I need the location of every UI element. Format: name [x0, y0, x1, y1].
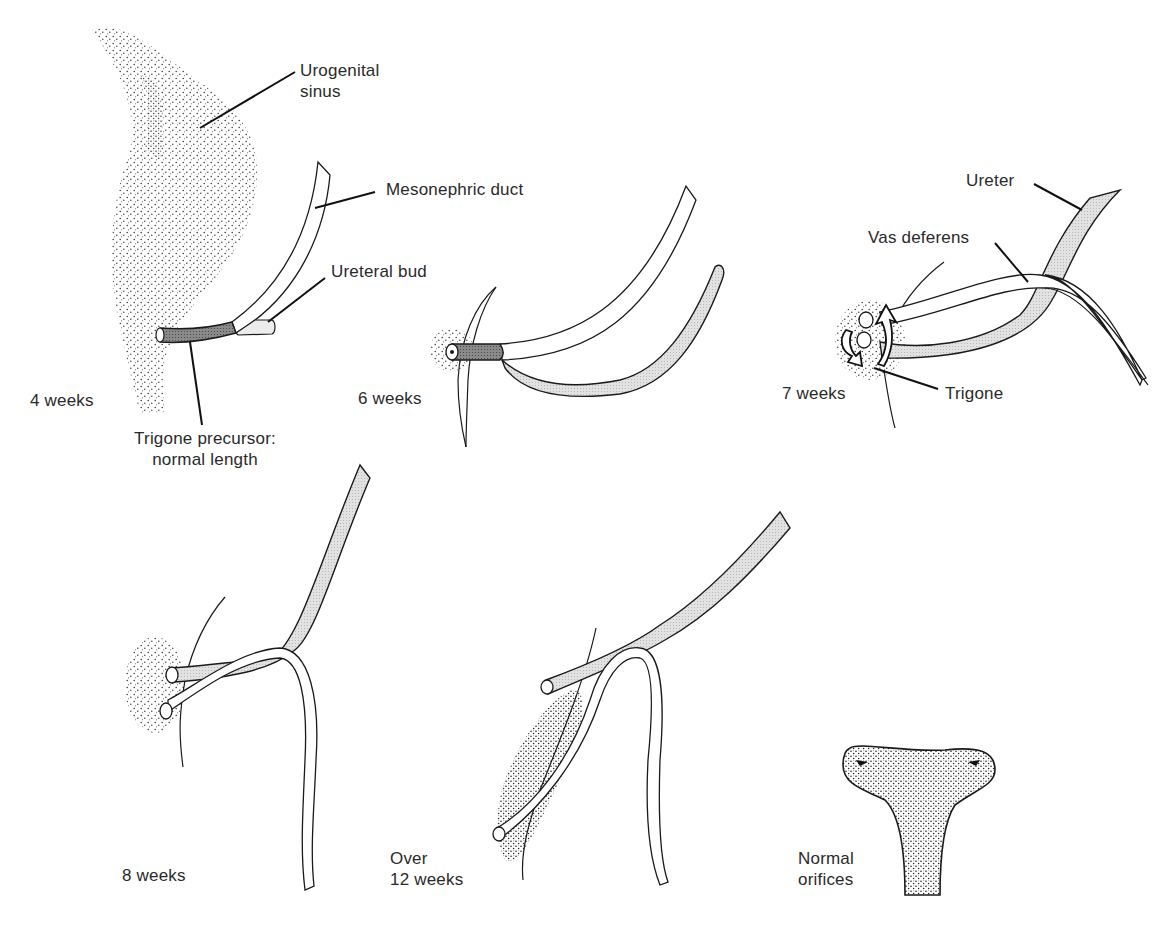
orifice-ureter [541, 680, 553, 694]
label-vas-deferens: Vas deferens [868, 227, 969, 248]
label-line: Over [390, 848, 463, 869]
vas-deferens [168, 648, 317, 890]
label-line: normal length [110, 449, 300, 470]
label-ureteral-bud: Ureteral bud [331, 261, 427, 282]
mesonephric-duct [500, 186, 696, 360]
label-urogenital-sinus: Urogenital sinus [300, 60, 380, 102]
label-trigone: Trigone [945, 383, 1003, 404]
label-line: 12 weeks [390, 869, 463, 890]
ureter [502, 265, 724, 396]
label-line: sinus [300, 81, 380, 102]
stage-label-7-weeks: 7 weeks [782, 383, 846, 404]
stage-label-4-weeks: 4 weeks [30, 390, 94, 411]
figure-canvas: Urogenital sinus Mesonephric duct Ureter… [0, 0, 1174, 931]
panel-8-weeks [125, 465, 370, 890]
ureter [880, 190, 1120, 358]
trigone-normal-shape [843, 746, 995, 895]
orifice-vas [859, 312, 873, 328]
sinus-stipple [125, 637, 185, 733]
panel-over-12-weeks [493, 512, 790, 885]
trigone-segment [452, 344, 503, 360]
label-normal-orifices: Normal orifices [798, 848, 854, 890]
orifice-vas [493, 827, 505, 841]
bladder-wall-lower [884, 370, 895, 428]
label-ureter: Ureter [966, 170, 1014, 191]
panel-6-weeks [430, 186, 724, 447]
orifice-ureter [166, 667, 178, 683]
label-trigone-precursor: Trigone precursor: normal length [110, 428, 300, 470]
label-mesonephric-duct: Mesonephric duct [386, 179, 523, 200]
leader-ureter [1034, 184, 1082, 210]
orifice-ureter [857, 332, 871, 348]
label-line: orifices [798, 869, 854, 890]
leader-trigone [874, 368, 938, 389]
ureter [546, 512, 790, 694]
orifice-vas [160, 703, 172, 719]
label-line: Trigone precursor: [110, 428, 300, 449]
panel-normal-orifices [843, 746, 995, 895]
stage-label-6-weeks: 6 weeks [358, 388, 422, 409]
stage-label-8-weeks: 8 weeks [122, 865, 186, 886]
sinus-stipple [498, 690, 583, 861]
urogenital-sinus-shape [92, 27, 257, 414]
orifice [156, 328, 164, 342]
leader-trigone-precursor [190, 342, 202, 425]
label-line: Urogenital [300, 60, 380, 81]
label-line: Normal [798, 848, 854, 869]
stage-label-over-12-weeks: Over 12 weeks [390, 848, 463, 890]
